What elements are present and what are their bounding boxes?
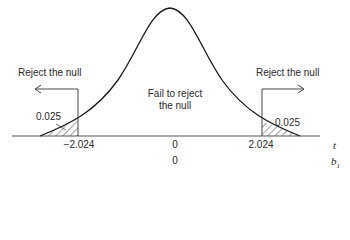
t-tick-left: −2.024 [64, 139, 95, 151]
left-tail-area: 0.025 [36, 111, 61, 123]
fail-to-reject-label-line1: Fail to reject [148, 88, 202, 100]
b-tick-center: 0 [172, 155, 178, 167]
t-tick-center: 0 [172, 139, 178, 151]
t-tick-right: 2.024 [248, 139, 273, 151]
left-reject-label: Reject the null [18, 67, 81, 79]
b-axis-label: b1 [331, 155, 340, 172]
right-tail-area: 0.025 [275, 117, 300, 129]
fail-to-reject-label-line2: the null [159, 100, 191, 112]
right-reject-label: Reject the null [256, 67, 319, 79]
t-axis-label: t [333, 139, 336, 151]
